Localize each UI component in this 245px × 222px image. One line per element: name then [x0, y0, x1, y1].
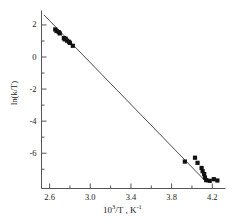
data-point [215, 178, 219, 182]
y-tick-label: -4 [18, 117, 37, 126]
y-tick-label: 0 [18, 53, 37, 62]
y-axis-label: ln(k/T) [9, 63, 19, 123]
axis-ticks [42, 25, 213, 189]
data-point [193, 156, 197, 160]
x-tick-label: 2.6 [40, 193, 60, 202]
x-tick-label: 3.8 [162, 193, 182, 202]
x-tick-label: 4.2 [202, 193, 222, 202]
y-tick-label: -6 [18, 149, 37, 158]
y-tick-label: 2 [18, 20, 37, 29]
eyring-plot-figure: 2.63.03.43.84.220-2-4-6 ln(k/T) 103/T , … [0, 0, 245, 222]
data-point [58, 31, 62, 35]
x-axis-label-base: 10 [103, 205, 112, 215]
x-axis-label-rest: /T , K [115, 205, 136, 215]
x-tick-label: 3.0 [80, 193, 100, 202]
data-point [71, 44, 75, 48]
data-point [183, 159, 187, 163]
data-point [208, 179, 212, 183]
x-axis-label: 103/T , K-1 [0, 203, 245, 215]
data-point [195, 161, 199, 165]
x-axis-label-unit-exponent: -1 [136, 203, 141, 210]
y-tick-label: -2 [18, 85, 37, 94]
chart-canvas [0, 0, 245, 222]
x-tick-label: 3.4 [121, 193, 141, 202]
